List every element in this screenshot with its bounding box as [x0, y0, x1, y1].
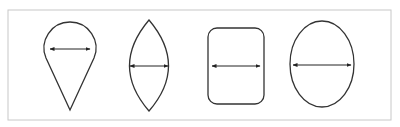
shapes-diagram	[0, 0, 400, 127]
